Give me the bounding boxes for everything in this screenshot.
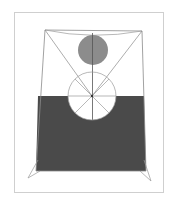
gray-disc xyxy=(78,35,108,65)
dark-block xyxy=(36,96,146,171)
geometric-artwork xyxy=(0,0,179,204)
center-dot xyxy=(91,95,93,97)
